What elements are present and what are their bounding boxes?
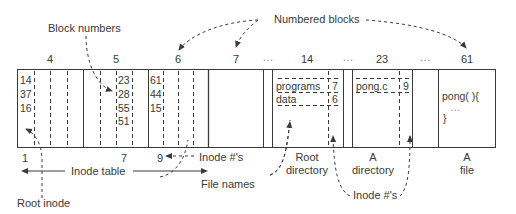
- file-names-label: File names: [201, 178, 255, 190]
- block-label-23: 23: [376, 53, 388, 65]
- a-dir-entry-name: pong.c: [356, 80, 388, 92]
- root-directory-caption: Root: [295, 151, 318, 163]
- block-label-14: 14: [301, 53, 313, 65]
- inode-index-7: 7: [121, 152, 127, 164]
- numbered-blocks-label: Numbered blocks: [274, 13, 360, 25]
- a-directory-caption: A: [369, 151, 376, 163]
- inode-entry: 15: [150, 102, 162, 114]
- inode-entry: 55: [118, 102, 130, 114]
- inode-numbers-bottom-label: Inode #'s: [353, 189, 397, 201]
- ellipsis-1: …: [263, 51, 274, 63]
- block-label-5: 5: [113, 53, 119, 65]
- inode-entry: 16: [20, 102, 32, 114]
- inode-entry: 44: [150, 88, 162, 100]
- ellipsis-2: …: [343, 51, 354, 63]
- root-inode-label: Root inode: [17, 197, 70, 209]
- a-dir-entry-inode: 9: [403, 80, 409, 92]
- inode-table-label: Inode table: [71, 165, 125, 177]
- disk-blocks-outline: [18, 70, 496, 148]
- inode-entry: 23: [118, 74, 130, 86]
- root-directory-caption: directory: [286, 164, 328, 176]
- root-dir-entry-name: data: [276, 93, 296, 105]
- root-dir-entry-name: programs: [276, 80, 320, 92]
- a-file-caption: file: [460, 164, 474, 176]
- block-label-6: 6: [175, 53, 181, 65]
- a-file-caption: A: [463, 151, 470, 163]
- file-content-line: …: [450, 101, 461, 113]
- root-dir-entry-inode: 7: [332, 80, 338, 92]
- inode-numbers-label: Inode #'s: [199, 151, 243, 163]
- inode-entry: 61: [150, 74, 162, 86]
- inode-index-1: 1: [22, 152, 28, 164]
- block-label-7: 7: [233, 53, 239, 65]
- file-content-line: }: [443, 112, 447, 124]
- inode-entry: 14: [20, 74, 32, 86]
- ellipsis-3: …: [420, 51, 431, 63]
- root-dir-entry-inode: 6: [332, 93, 338, 105]
- block-label-61: 61: [461, 53, 473, 65]
- inode-entry: 28: [118, 88, 130, 100]
- block-label-4: 4: [47, 53, 53, 65]
- block-numbers-label: Block numbers: [48, 22, 121, 34]
- inode-index-9: 9: [157, 152, 163, 164]
- inode-entry: 51: [118, 115, 130, 127]
- inode-entry: 37: [20, 88, 32, 100]
- a-directory-caption: directory: [352, 164, 394, 176]
